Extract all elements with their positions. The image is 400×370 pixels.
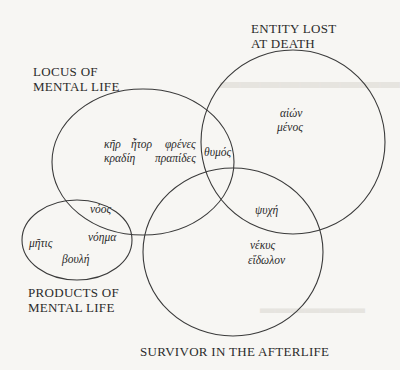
term-prapides: πραπίδες (155, 151, 196, 165)
entity-label-line1: ENTITY LOST (251, 21, 337, 36)
term-noema: νόημα (88, 230, 116, 244)
locus-label-line2: MENTAL LIFE (33, 79, 120, 94)
term-metis: μῆτις (29, 236, 52, 250)
products-label-line1: PRODUCTS OF (28, 285, 119, 300)
term-phrenes: φρένες (165, 137, 196, 151)
term-psuche: ψυχή (255, 203, 278, 217)
survivor-label: SURVIVOR IN THE AFTERLIFE (140, 344, 329, 359)
locus-label: LOCUS OF MENTAL LIFE (33, 64, 120, 94)
term-menos: μένος (277, 120, 303, 134)
entity-label: ENTITY LOST AT DEATH (251, 21, 337, 51)
term-boule: βουλή (62, 252, 89, 266)
locus-label-line1: LOCUS OF (33, 64, 120, 79)
term-ker: κῆρ (104, 137, 121, 151)
products-label-line2: MENTAL LIFE (28, 300, 119, 315)
survivor-in-afterlife-circle (143, 168, 323, 336)
term-kradie: κραδίη (104, 151, 135, 165)
term-noos: νόος (90, 202, 111, 216)
term-aion: αἰών (280, 106, 302, 120)
survivor-label-line1: SURVIVOR IN THE AFTERLIFE (140, 344, 329, 359)
entity-label-line2: AT DEATH (251, 36, 337, 51)
entity-lost-at-death-circle (201, 50, 385, 234)
term-eidolon: εἴδωλον (248, 253, 285, 267)
term-etor: ἦτορ (131, 137, 152, 151)
term-thumos: θυμός (204, 145, 231, 159)
products-label: PRODUCTS OF MENTAL LIFE (28, 285, 119, 315)
term-nekus: νέκυς (250, 238, 275, 252)
